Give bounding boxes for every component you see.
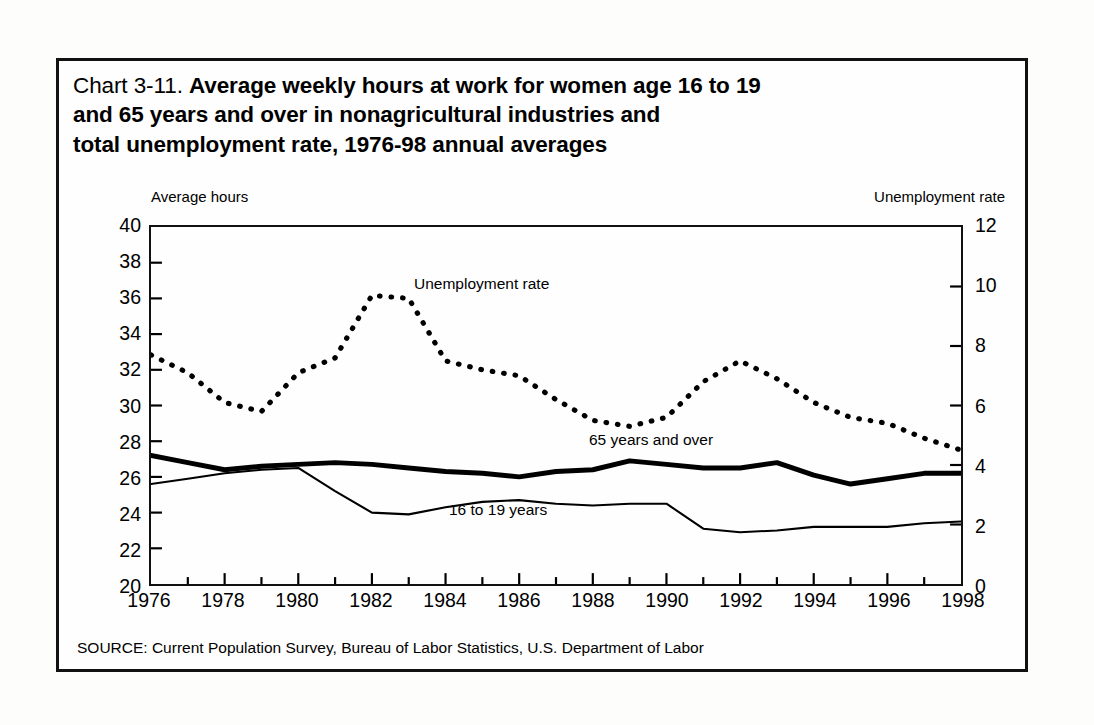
y-axis-left-tick-label: 30 bbox=[119, 394, 141, 417]
plot-svg bbox=[151, 227, 961, 584]
chart-title-line-2: and 65 years and over in nonagricultural… bbox=[73, 102, 660, 127]
series-annotation-65-years-and-over: 65 years and over bbox=[589, 431, 713, 449]
x-axis-tick-label: 1988 bbox=[571, 589, 614, 612]
y-axis-right-tick-label: 4 bbox=[975, 454, 986, 477]
y-axis-left-tick-label: 32 bbox=[119, 358, 141, 381]
y-axis-right-tick-label: 12 bbox=[975, 214, 997, 237]
x-axis-tick-label: 1978 bbox=[201, 589, 244, 612]
plot-area bbox=[149, 225, 963, 586]
x-axis-tick-label: 1998 bbox=[941, 589, 984, 612]
x-axis-tick-label: 1986 bbox=[497, 589, 540, 612]
series-annotation-unemployment-rate: Unemployment rate bbox=[414, 275, 549, 293]
y-axis-left-tick-label: 28 bbox=[119, 430, 141, 453]
x-axis-tick-label: 1976 bbox=[127, 589, 170, 612]
series-line-unemployment-rate bbox=[151, 295, 961, 450]
y-axis-left-tick-label: 40 bbox=[119, 214, 141, 237]
x-axis-tick-label: 1994 bbox=[793, 589, 836, 612]
y-axis-right-tick-label: 8 bbox=[975, 334, 986, 357]
page-canvas: Chart 3-11. Average weekly hours at work… bbox=[0, 0, 1094, 725]
y-axis-left-tick-label: 22 bbox=[119, 538, 141, 561]
x-axis-tick-label: 1984 bbox=[423, 589, 466, 612]
y-axis-right-tick-labels: 024681012 bbox=[975, 225, 1035, 586]
x-axis-tick-labels: 1976197819801982198419861988199019921994… bbox=[149, 589, 963, 619]
y-axis-left-tick-label: 38 bbox=[119, 250, 141, 273]
x-axis-tick-label: 1996 bbox=[867, 589, 910, 612]
x-axis-tick-label: 1980 bbox=[275, 589, 318, 612]
y-axis-right-tick-label: 2 bbox=[975, 514, 986, 537]
left-axis-caption: Average hours bbox=[151, 188, 248, 205]
x-axis-tick-label: 1982 bbox=[349, 589, 392, 612]
chart-figure-frame: Chart 3-11. Average weekly hours at work… bbox=[56, 58, 1028, 672]
y-axis-left-tick-label: 24 bbox=[119, 502, 141, 525]
y-axis-left-tick-label: 26 bbox=[119, 466, 141, 489]
y-axis-right-tick-label: 10 bbox=[975, 274, 997, 297]
x-axis-tick-label: 1992 bbox=[719, 589, 762, 612]
y-axis-left-tick-labels: 2022242628303234363840 bbox=[81, 225, 141, 586]
source-note: SOURCE: Current Population Survey, Burea… bbox=[77, 639, 704, 657]
right-axis-caption: Unemployment rate bbox=[874, 188, 1005, 205]
series-annotation-16-to-19-years: 16 to 19 years bbox=[449, 501, 547, 519]
y-axis-left-tick-label: 34 bbox=[119, 322, 141, 345]
x-axis-tick-label: 1990 bbox=[645, 589, 688, 612]
series-line-16-to-19-years bbox=[151, 468, 961, 532]
page-title: Chart 3-11. Average weekly hours at work… bbox=[73, 71, 1003, 159]
chart-title-line-3: total unemployment rate, 1976-98 annual … bbox=[73, 132, 607, 157]
chart-title-line-1: Average weekly hours at work for women a… bbox=[189, 73, 761, 98]
y-axis-left-tick-label: 36 bbox=[119, 286, 141, 309]
chart-number-label: Chart 3-11. bbox=[73, 73, 183, 98]
y-axis-right-tick-label: 6 bbox=[975, 394, 986, 417]
